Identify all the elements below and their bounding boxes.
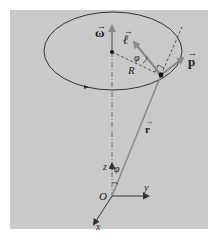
r-vector [112, 75, 161, 196]
label-r-arrow: → [145, 117, 153, 126]
orbit-direction-arrow [84, 85, 89, 89]
label-origin: O [99, 190, 107, 202]
label-y: y [143, 182, 149, 193]
label-omega-arrow: → [97, 21, 106, 31]
label-phi-bottom: φ [114, 163, 120, 174]
angular-momentum-diagram: ω → ℓ → p → φ R r → z φ O y x [0, 0, 218, 241]
label-x: x [95, 221, 101, 232]
label-phi-top: φ [134, 52, 140, 63]
label-p-arrow: → [188, 48, 197, 58]
particle-dot [159, 73, 164, 78]
label-z: z [102, 161, 107, 172]
label-ell-arrow: → [124, 26, 133, 36]
p-vector [161, 58, 183, 75]
label-R: R [127, 64, 135, 76]
